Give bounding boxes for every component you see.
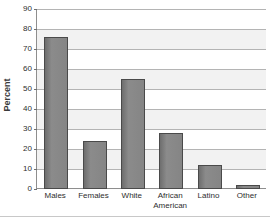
y-tick-label-60: 60	[23, 65, 32, 73]
bar-other	[236, 185, 260, 189]
bottom-divider	[0, 216, 270, 217]
plot-area	[36, 9, 266, 189]
y-axis-title: Percent	[0, 0, 14, 190]
x-tick-label-males: Males	[36, 191, 74, 201]
y-tick-label-40: 40	[23, 105, 32, 113]
y-tick-label-20: 20	[23, 145, 32, 153]
x-tick-label-african-american: African American	[151, 191, 189, 211]
y-tick-label-70: 70	[23, 45, 32, 53]
y-axis-tick-labels: 9080706050403020100	[14, 9, 34, 189]
x-tick-label-latino: Latino	[189, 191, 227, 201]
y-tickmark-0	[34, 189, 37, 190]
y-tick-label-90: 90	[23, 5, 32, 13]
bar-chart-figure: Percent 9080706050403020100 MalesFemales…	[0, 0, 270, 223]
y-tick-label-0: 0	[28, 185, 32, 193]
y-tick-label-10: 10	[23, 165, 32, 173]
x-tick-label-other: Other	[228, 191, 266, 201]
y-axis-title-label: Percent	[2, 78, 12, 111]
x-tick-label-white: White	[113, 191, 151, 201]
x-tick-label-females: Females	[74, 191, 112, 201]
bar-latino	[198, 165, 222, 189]
y-tick-label-80: 80	[23, 25, 32, 33]
y-tick-label-30: 30	[23, 125, 32, 133]
bar-females	[83, 141, 107, 189]
bar-african-american	[159, 133, 183, 189]
bar-white	[121, 79, 145, 189]
y-tick-label-50: 50	[23, 85, 32, 93]
bars-group	[37, 9, 266, 189]
bar-males	[44, 37, 68, 189]
